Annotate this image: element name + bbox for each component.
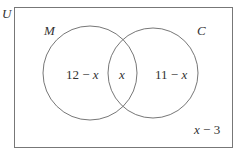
set-c-label: C xyxy=(197,23,206,38)
region-only-m: 12 − x xyxy=(66,67,99,82)
region-outside: x − 3 xyxy=(193,122,220,137)
region-intersection: x xyxy=(118,67,125,82)
region-only-c: 11 − x xyxy=(155,67,187,82)
venn-diagram: U M C 12 − x x 11 − x x − 3 xyxy=(0,0,239,153)
set-m-label: M xyxy=(43,23,56,38)
universe-label: U xyxy=(2,6,13,21)
